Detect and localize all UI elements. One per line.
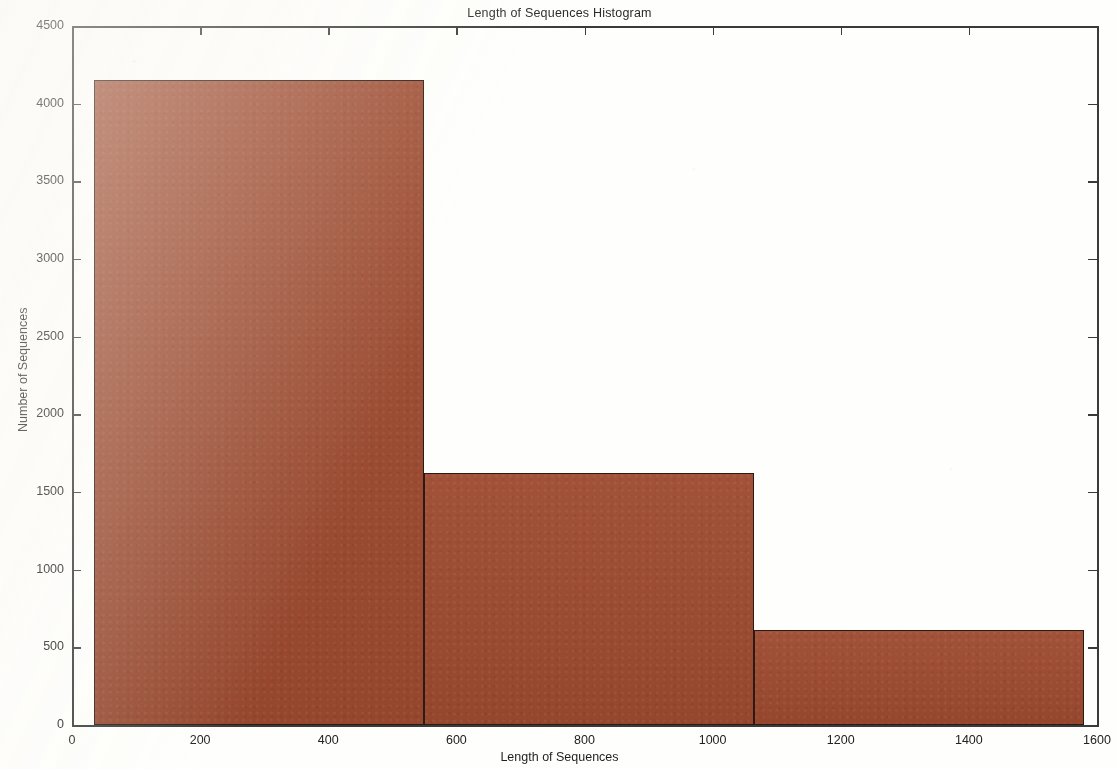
y-tick-mark — [72, 414, 81, 415]
y-tick-mark — [72, 725, 81, 726]
y-tick-label: 2500 — [0, 329, 64, 343]
y-axis-line — [72, 26, 74, 726]
x-tick-mark — [1097, 716, 1098, 725]
x-tick-mark-top — [200, 26, 201, 35]
y-tick-mark-right — [1088, 725, 1097, 726]
x-tick-label: 400 — [294, 733, 362, 747]
x-tick-label: 200 — [166, 733, 234, 747]
y-tick-mark — [72, 181, 81, 182]
y-tick-mark-right — [1088, 492, 1097, 493]
histogram-bar — [94, 80, 424, 725]
y-tick-mark-right — [1088, 414, 1097, 415]
y-tick-mark — [72, 259, 81, 260]
y-tick-label: 3500 — [0, 173, 64, 187]
x-tick-mark-top — [585, 26, 586, 35]
x-tick-mark-top — [1097, 26, 1098, 35]
y-tick-mark-right — [1088, 570, 1097, 571]
histogram-bar — [424, 473, 754, 725]
y-tick-label: 1000 — [0, 562, 64, 576]
x-tick-mark-top — [969, 26, 970, 35]
x-tick-label: 0 — [38, 733, 106, 747]
x-tick-mark-top — [713, 26, 714, 35]
x-tick-mark-top — [456, 26, 457, 35]
chart-title: Length of Sequences Histogram — [0, 6, 1119, 20]
y-tick-mark-right — [1088, 26, 1097, 27]
y-tick-mark — [72, 647, 81, 648]
y-tick-mark — [72, 570, 81, 571]
y-tick-label: 500 — [0, 639, 64, 653]
y-tick-label: 4000 — [0, 96, 64, 110]
y-tick-mark-right — [1088, 104, 1097, 105]
y-tick-mark — [72, 104, 81, 105]
x-tick-mark-top — [328, 26, 329, 35]
x-tick-label: 1000 — [679, 733, 747, 747]
y-tick-label: 0 — [0, 717, 64, 731]
x-tick-mark-top — [841, 26, 842, 35]
x-tick-label: 800 — [551, 733, 619, 747]
x-tick-mark — [72, 716, 73, 725]
y-tick-label: 4500 — [0, 18, 64, 32]
y-tick-mark — [72, 492, 81, 493]
y-tick-label: 3000 — [0, 251, 64, 265]
x-axis-line — [72, 725, 1099, 727]
right-axis-line — [1097, 26, 1099, 726]
x-tick-mark-top — [72, 26, 73, 35]
y-tick-mark-right — [1088, 181, 1097, 182]
y-axis-label: Number of Sequences — [16, 308, 30, 432]
y-tick-mark — [72, 337, 81, 338]
y-tick-label: 1500 — [0, 484, 64, 498]
x-tick-label: 600 — [422, 733, 490, 747]
x-tick-label: 1600 — [1063, 733, 1119, 747]
y-tick-mark-right — [1088, 647, 1097, 648]
histogram-bar — [754, 630, 1084, 725]
x-tick-label: 1200 — [807, 733, 875, 747]
y-tick-label: 2000 — [0, 406, 64, 420]
y-tick-mark-right — [1088, 259, 1097, 260]
y-tick-mark-right — [1088, 337, 1097, 338]
x-tick-label: 1400 — [935, 733, 1003, 747]
figure-canvas: Length of Sequences Histogram 0500100015… — [0, 0, 1119, 769]
x-axis-label: Length of Sequences — [0, 750, 1119, 764]
